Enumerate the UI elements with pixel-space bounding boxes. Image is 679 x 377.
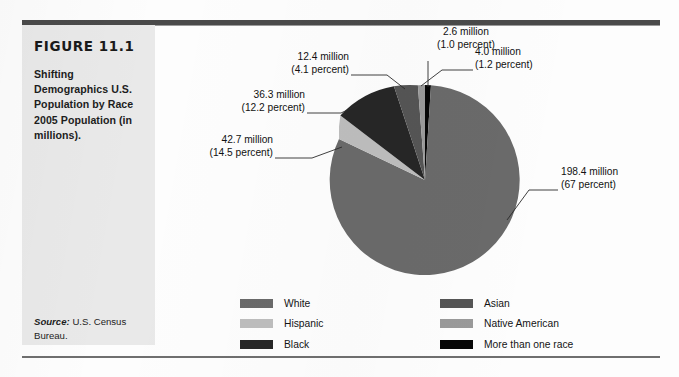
legend-item-asian[interactable]: Asian [440,297,510,310]
figure-sidebar-panel: FIGURE 11.1 Shifting Demographics U.S. P… [22,25,155,345]
legend-swatch-white [240,299,273,308]
leader-line-hispanic [275,147,342,158]
callout-percent: (4.1 percent) [231,63,349,76]
legend-label-asian: Asian [484,298,510,309]
callout-asian: 12.4 million (4.1 percent) [231,50,349,77]
callout-value: 2.6 million [443,26,489,37]
legend-item-white[interactable]: White [240,297,310,310]
legend-swatch-black [240,340,273,349]
legend-item-more-than-one-race[interactable]: More than one race [440,338,573,351]
source-prefix: Source: [34,316,70,327]
callout-white: 198.4 million (67 percent) [561,165,671,192]
leader-line-native-american [421,70,473,86]
legend-label-hispanic: Hispanic [284,318,324,329]
bottom-rule [22,356,660,358]
legend-label-more-than-one-race: More than one race [484,339,573,350]
figure-page: FIGURE 11.1 Shifting Demographics U.S. P… [0,0,679,377]
callout-native-american: 4.0 million (1.2 percent) [475,45,585,72]
callout-value: 36.3 million [253,89,305,100]
legend-swatch-asian [440,299,473,308]
chart-legend: White Hispanic Black Asian Native Americ… [240,297,660,349]
callout-value: 4.0 million [475,46,521,57]
figure-source-note: Source: U.S. Census Bureau. [34,315,152,342]
legend-swatch-native-american [440,319,473,328]
callout-percent: (14.5 percent) [155,146,273,159]
figure-number-label: FIGURE 11.1 [34,38,144,54]
legend-item-black[interactable]: Black [240,338,309,351]
legend-swatch-hispanic [240,319,273,328]
legend-swatch-more-than-one-race [440,340,473,349]
legend-label-black: Black [284,339,309,350]
legend-label-native-american: Native American [484,318,559,329]
callout-percent: (67 percent) [561,178,671,191]
callout-value: 42.7 million [221,134,273,145]
legend-item-native-american[interactable]: Native American [440,317,559,330]
callout-black: 36.3 million (12.2 percent) [187,88,305,115]
callout-value: 12.4 million [297,51,349,62]
legend-item-hispanic[interactable]: Hispanic [240,317,324,330]
pie-slices [330,85,520,275]
callout-value: 198.4 million [561,166,618,177]
legend-label-white: White [284,298,310,309]
callout-hispanic: 42.7 million (14.5 percent) [155,133,273,160]
figure-caption: Shifting Demographics U.S. Population by… [34,67,144,143]
callout-percent: (1.2 percent) [475,58,585,71]
callout-percent: (12.2 percent) [187,101,305,114]
